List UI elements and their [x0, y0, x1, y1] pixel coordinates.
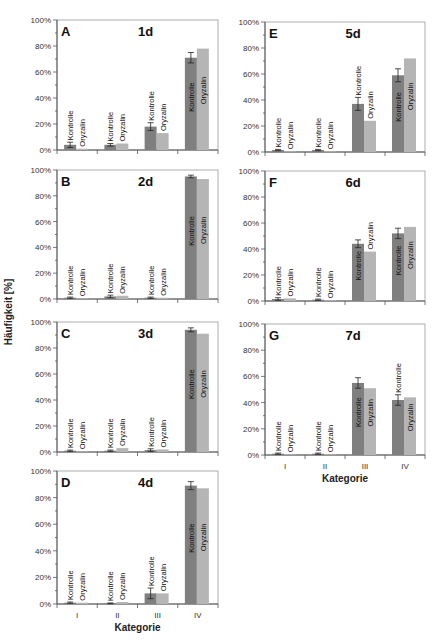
panel-g-letter: G	[269, 328, 279, 343]
panel-f-ytick-label: 100%	[239, 167, 259, 176]
panel-d-xtick-label: IV	[194, 611, 202, 620]
panel-d-bar-label: Kontrolle	[147, 556, 156, 586]
panel-d-bar-label: Oryzalin	[118, 572, 127, 600]
panel-f-bar-oryzalin-iii	[364, 252, 376, 301]
panel-e-bar-label: Oryzalin	[406, 83, 415, 111]
panel-d-bar-label: Oryzalin	[159, 564, 168, 592]
panel-d-ytick-label: 0%	[39, 600, 51, 609]
panel-c-bar-label: Oryzalin	[78, 422, 87, 450]
panel-f-bar-label: Kontrolle	[354, 251, 363, 281]
panel-c-bar-label: Kontrolle	[66, 418, 75, 448]
panel-b-ytick-label: 80%	[35, 192, 51, 201]
panel-c-ytick-label: 80%	[35, 344, 51, 353]
panel-g-ytick-label: 60%	[243, 372, 259, 381]
panel-e-bar-label: Oryzalin	[366, 91, 375, 119]
panel-a-title: 1d	[138, 24, 153, 39]
y-axis-title: Häufigkeit [%]	[3, 279, 14, 346]
panel-f-bar-label: Kontrolle	[394, 246, 403, 276]
panel-g-bar-label: Oryzalin	[366, 399, 375, 427]
panel-e-letter: E	[269, 26, 278, 41]
panel-b-ytick-label: 20%	[35, 269, 51, 278]
panel-f-bar-label: Kontrolle	[314, 267, 323, 297]
panel-e-bar-oryzalin-i	[284, 151, 296, 152]
panel-d-ytick-label: 80%	[35, 494, 51, 503]
panel-d-bar-oryzalin-iii	[157, 593, 169, 604]
panel-f-bar-oryzalin-ii	[324, 300, 336, 301]
panel-g-bar-label: Kontrolle	[274, 421, 283, 451]
panel-d-bar-label: Kontrolle	[187, 523, 196, 553]
panel-d-letter: D	[61, 475, 70, 490]
panel-c-bar-label: Kontrolle	[106, 418, 115, 448]
panel-e-title: 5d	[345, 26, 360, 41]
panel-c-bar-label: Kontrolle	[187, 369, 196, 399]
panel-d-x-axis-title: Kategorie	[114, 622, 161, 633]
panel-b-ytick-label: 0%	[39, 295, 51, 304]
panel-f-ytick-label: 40%	[243, 245, 259, 254]
panel-c-bar-label: Oryzalin	[159, 420, 168, 448]
panel-c-ytick-label: 60%	[35, 370, 51, 379]
panel-b-title: 2d	[138, 174, 153, 189]
panel-a-ytick-label: 100%	[31, 16, 51, 25]
panel-d-xtick-label: II	[115, 611, 119, 620]
panel-e-bar-oryzalin-iii	[364, 121, 376, 152]
panel-a-bar-label: Kontrolle	[66, 111, 75, 141]
panel-e-bar-kontrolle-iii	[352, 104, 364, 152]
panel-a-ytick-label: 0%	[39, 146, 51, 155]
panel-d-xtick-label: III	[154, 611, 161, 620]
chart-figure: Häufigkeit [%] 0%20%40%60%80%100%A1dKont…	[0, 0, 440, 644]
panel-e-ytick-label: 40%	[243, 96, 259, 105]
panel-e-ytick-label: 80%	[243, 44, 259, 53]
panel-c-bar-oryzalin-iii	[157, 449, 169, 452]
panel-b-bar-label: Oryzalin	[159, 268, 168, 296]
panel-g-xtick-label: IV	[401, 462, 409, 471]
panel-a-bar-label: Kontrolle	[147, 91, 156, 121]
panel-f-letter: F	[269, 175, 277, 190]
panel-f-title: 6d	[345, 175, 360, 190]
panel-e-bar-label: Kontrolle	[394, 92, 403, 122]
panel-g-ytick-label: 100%	[239, 320, 259, 329]
panel-g-title: 7d	[345, 328, 360, 343]
panel-e-bar-label: Oryzalin	[286, 122, 295, 150]
panel-b-bar-label: Oryzalin	[118, 266, 127, 294]
panel-g-ytick-label: 80%	[243, 346, 259, 355]
panel-a-bar-label: Kontrolle	[187, 82, 196, 112]
panel-e-ytick-label: 100%	[239, 18, 259, 27]
panel-c-bar-oryzalin-i	[76, 451, 88, 452]
panel-c-ytick-label: 0%	[39, 448, 51, 457]
panel-a-ytick-label: 20%	[35, 120, 51, 129]
panel-e-bar-label: Kontrolle	[314, 118, 323, 148]
panel-b-ytick-label: 100%	[31, 166, 51, 175]
panel-b-bar-label: Oryzalin	[78, 269, 87, 297]
panel-c-ytick-label: 100%	[31, 318, 51, 327]
panel-f-ytick-label: 0%	[247, 297, 259, 306]
panel-a-ytick-label: 40%	[35, 94, 51, 103]
panel-d-ytick-label: 40%	[35, 547, 51, 556]
panel-e-bar-label: Kontrolle	[354, 66, 363, 96]
panel-a-bar-oryzalin-i	[76, 149, 88, 150]
panel-g-bar-label: Kontrolle	[314, 421, 323, 451]
panel-f-bar-label: Oryzalin	[406, 241, 415, 269]
panel-c-bar-label: Oryzalin	[199, 370, 208, 398]
panel-d-bar-label: Oryzalin	[199, 524, 208, 552]
panel-a-bar-label: Oryzalin	[199, 77, 208, 105]
panel-e-bar-oryzalin-ii	[324, 151, 336, 152]
panel-g-bar-label: Oryzalin	[406, 404, 415, 432]
panel-d-bar-label: Kontrolle	[106, 571, 115, 601]
panel-g-xtick-label: II	[323, 462, 327, 471]
panel-g-bar-label: Oryzalin	[286, 425, 295, 453]
panel-c-ytick-label: 20%	[35, 422, 51, 431]
panel-c-bar-label: Oryzalin	[118, 419, 127, 447]
panel-b-bar-label: Kontrolle	[147, 265, 156, 295]
panel-g-x-axis-title: Kategorie	[322, 473, 369, 484]
panel-g-ytick-label: 40%	[243, 399, 259, 408]
panel-g-bar-oryzalin-i	[284, 454, 296, 455]
panel-c-letter: C	[61, 326, 71, 341]
panel-f-ytick-label: 60%	[243, 219, 259, 228]
panel-g-ytick-label: 0%	[247, 451, 259, 460]
panel-d-ytick-label: 20%	[35, 573, 51, 582]
panel-c-bar-oryzalin-ii	[116, 448, 128, 452]
panel-b-bar-label: Kontrolle	[187, 216, 196, 246]
panel-g-ytick-label: 20%	[243, 425, 259, 434]
panel-a-bar-label: Oryzalin	[78, 119, 87, 147]
panel-g-bar-kontrolle-iv	[392, 400, 404, 455]
